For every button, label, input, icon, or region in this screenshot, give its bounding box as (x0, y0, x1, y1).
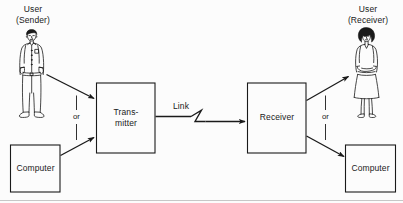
arrow-sender-to-transmitter (47, 75, 95, 99)
standing-man-figure (19, 30, 44, 118)
receiver-label: Receiver (247, 112, 307, 123)
user-receiver-label: User (Receiver) (333, 4, 403, 25)
link-label: Link (164, 101, 198, 112)
computer-right-label: Computer (345, 163, 396, 174)
standing-woman-figure (354, 28, 379, 118)
arrow-computer-left-to-transmitter (61, 138, 95, 156)
link-connector (156, 110, 246, 121)
transmitter-label-line2: mitter (96, 118, 156, 129)
transmitter-label-line1: Trans- (96, 107, 156, 118)
arrow-receiver-to-user (307, 77, 349, 101)
user-receiver-label-line2: (Receiver) (333, 15, 403, 26)
user-receiver-label-line1: User (333, 4, 403, 15)
diagram-canvas: User (Sender) User (Receiver) Trans- mit… (0, 0, 403, 203)
user-sender-label-line1: User (0, 4, 66, 15)
user-sender-label: User (Sender) (0, 4, 66, 25)
or-label-right: or (315, 112, 336, 123)
computer-left-label: Computer (10, 163, 61, 174)
or-label-left: or (66, 112, 87, 123)
transmitter-label: Trans- mitter (96, 107, 156, 128)
user-sender-label-line2: (Sender) (0, 15, 66, 26)
